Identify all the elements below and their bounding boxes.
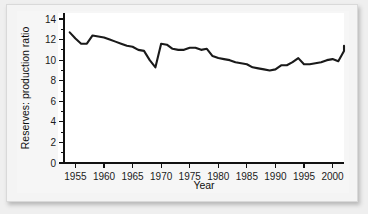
x-tick-label-1995: 1995	[293, 171, 316, 182]
y-axis-tick-labels: 02468101214	[45, 14, 57, 169]
y-tick-label-4: 4	[50, 116, 56, 127]
plot-area-background	[58, 13, 344, 163]
x-tick-label-1970: 1970	[150, 171, 173, 182]
x-tick-label-1955: 1955	[64, 171, 87, 182]
y-tick-label-8: 8	[50, 75, 56, 86]
y-tick-label-10: 10	[45, 55, 57, 66]
y-tick-label-0: 0	[50, 158, 56, 169]
y-tick-label-6: 6	[50, 96, 56, 107]
y-tick-label-2: 2	[50, 137, 56, 148]
y-tick-label-12: 12	[45, 34, 57, 45]
chart-inner-panel: 02468101214 1955196019651970197519801985…	[17, 11, 349, 193]
x-tick-label-2000: 2000	[321, 171, 344, 182]
x-axis-major-ticks	[75, 163, 332, 168]
x-axis-title: Year	[193, 179, 215, 191]
x-tick-label-1965: 1965	[121, 171, 144, 182]
line-chart: 02468101214 1955196019651970197519801985…	[17, 11, 349, 193]
chart-figure: 02468101214 1955196019651970197519801985…	[0, 0, 368, 214]
x-tick-label-1985: 1985	[236, 171, 259, 182]
x-tick-label-1990: 1990	[264, 171, 287, 182]
x-tick-label-1960: 1960	[93, 171, 116, 182]
chart-plate: 02468101214 1955196019651970197519801985…	[6, 4, 358, 202]
y-tick-label-14: 14	[45, 14, 57, 25]
y-axis-title: Reserves: production ratio	[19, 27, 31, 150]
